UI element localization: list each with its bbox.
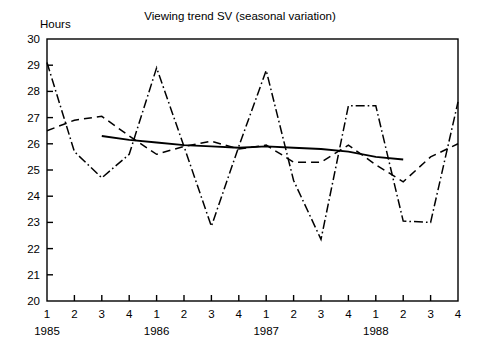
y-axis-tick-label: 23 [27,216,40,228]
chart-title: Viewing trend SV (seasonal variation) [144,10,336,22]
y-axis-tick-label: 24 [27,190,40,202]
x-axis-tick-label: 2 [400,308,406,320]
y-axis-tick-label: 27 [27,112,40,124]
y-axis-tick-label: 28 [27,85,40,97]
x-axis-tick-label: 4 [126,308,133,320]
x-axis-tick-label: 2 [290,308,296,320]
x-axis-tick-label: 4 [345,308,352,320]
x-axis: 1234123412341234 [44,295,462,320]
x-axis-tick-label: 3 [99,308,105,320]
viewing-trend-chart: 3029282726252423222120 1234123412341234 … [0,0,481,346]
x-axis-year-label: 1986 [144,325,170,337]
x-axis-year-labels: 1985198619871988 [34,325,388,337]
x-axis-year-label: 1988 [363,325,389,337]
x-axis-tick-label: 3 [208,308,214,320]
x-axis-year-label: 1985 [34,325,60,337]
x-axis-tick-label: 1 [373,308,379,320]
y-axis-label: Hours [40,18,71,30]
x-axis-tick-label: 2 [181,308,187,320]
x-axis-tick-label: 4 [236,308,243,320]
data-series-group [47,63,458,240]
x-axis-tick-label: 3 [318,308,324,320]
x-axis-tick-label: 1 [263,308,269,320]
series-line [47,63,458,240]
x-axis-tick-label: 2 [71,308,77,320]
y-axis-tick-label: 25 [27,164,40,176]
x-axis-tick-label: 4 [455,308,462,320]
x-axis-tick-label: 1 [153,308,159,320]
series-line [102,136,403,160]
x-axis-tick-label: 3 [427,308,433,320]
x-axis-tick-label: 1 [44,308,50,320]
y-axis-tick-label: 30 [27,33,40,45]
y-axis-tick-label: 22 [27,243,40,255]
y-axis-tick-label: 26 [27,138,40,150]
y-axis: 3029282726252423222120 [27,33,53,307]
y-axis-tick-label: 21 [27,269,40,281]
plot-frame [47,39,458,301]
y-axis-tick-label: 20 [27,295,40,307]
y-axis-tick-label: 29 [27,59,40,71]
chart-figure: 3029282726252423222120 1234123412341234 … [0,0,481,346]
x-axis-year-label: 1987 [253,325,279,337]
